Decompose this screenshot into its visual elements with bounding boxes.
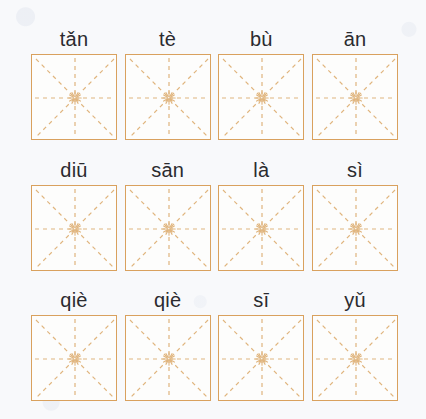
- practice-cell[interactable]: sī: [218, 285, 304, 401]
- pinyin-label: là: [253, 155, 269, 185]
- practice-grid-container: tǎntèbùāndiūsānlàsìqièqièsīyǔ: [0, 0, 426, 419]
- grid-guide-lines-icon: [219, 186, 305, 272]
- mi-zi-ge-box[interactable]: [125, 185, 211, 271]
- mi-zi-ge-box[interactable]: [312, 54, 398, 140]
- grid-guide-lines-icon: [313, 316, 399, 402]
- mi-zi-ge-box[interactable]: [218, 315, 304, 401]
- pinyin-label: bù: [250, 24, 273, 54]
- grid-guide-lines-icon: [32, 316, 118, 402]
- practice-cell[interactable]: qiè: [125, 285, 211, 401]
- pinyin-label: sān: [151, 155, 184, 185]
- pinyin-label: sī: [253, 285, 269, 315]
- practice-cell[interactable]: tǎn: [31, 24, 117, 140]
- grid-guide-lines-icon: [313, 186, 399, 272]
- mi-zi-ge-box[interactable]: [312, 315, 398, 401]
- practice-cell[interactable]: là: [218, 155, 304, 271]
- pinyin-label: tè: [159, 24, 176, 54]
- pinyin-label: ān: [344, 24, 367, 54]
- practice-cell[interactable]: bù: [218, 24, 304, 140]
- grid-guide-lines-icon: [219, 55, 305, 141]
- mi-zi-ge-box[interactable]: [125, 315, 211, 401]
- pinyin-label: qiè: [60, 285, 87, 315]
- mi-zi-ge-box[interactable]: [31, 315, 117, 401]
- practice-cell[interactable]: sì: [312, 155, 398, 271]
- practice-cell[interactable]: diū: [31, 155, 117, 271]
- practice-cell[interactable]: ān: [312, 24, 398, 140]
- practice-cell[interactable]: tè: [125, 24, 211, 140]
- practice-row-1: tǎntèbùān: [31, 24, 398, 140]
- grid-guide-lines-icon: [32, 186, 118, 272]
- mi-zi-ge-box[interactable]: [218, 54, 304, 140]
- grid-guide-lines-icon: [313, 55, 399, 141]
- practice-cell[interactable]: yǔ: [312, 285, 398, 401]
- mi-zi-ge-box[interactable]: [312, 185, 398, 271]
- grid-guide-lines-icon: [219, 316, 305, 402]
- mi-zi-ge-box[interactable]: [218, 185, 304, 271]
- practice-cell[interactable]: qiè: [31, 285, 117, 401]
- mi-zi-ge-box[interactable]: [31, 185, 117, 271]
- mi-zi-ge-box[interactable]: [125, 54, 211, 140]
- mi-zi-ge-box[interactable]: [31, 54, 117, 140]
- pinyin-label: diū: [60, 155, 87, 185]
- grid-guide-lines-icon: [126, 186, 212, 272]
- practice-cell[interactable]: sān: [125, 155, 211, 271]
- grid-guide-lines-icon: [32, 55, 118, 141]
- pinyin-label: sì: [347, 155, 363, 185]
- pinyin-label: yǔ: [344, 285, 366, 315]
- grid-guide-lines-icon: [126, 316, 212, 402]
- practice-row-2: diūsānlàsì: [31, 155, 398, 271]
- pinyin-worksheet: tǎntèbùāndiūsānlàsìqièqièsīyǔ: [0, 0, 426, 419]
- pinyin-label: qiè: [154, 285, 181, 315]
- pinyin-label: tǎn: [60, 24, 88, 54]
- grid-guide-lines-icon: [126, 55, 212, 141]
- practice-row-3: qièqièsīyǔ: [31, 285, 398, 401]
